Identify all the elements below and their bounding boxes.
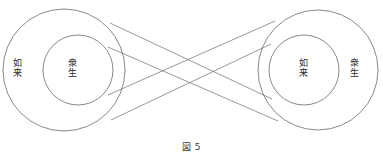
figure-caption: 図 5 [0,140,383,153]
right-outer-ring-label: 衆生 [349,58,359,77]
right-outer-circle [258,10,378,130]
left-inner-circle-label: 衆生 [67,58,77,77]
figure-container: 如来 衆生 如来 衆生 図 5 [0,0,383,160]
connector-line-1 [110,23,272,99]
left-inner-circle [43,35,113,105]
right-inner-circle-label: 如来 [298,58,308,77]
connector-line-4 [111,44,271,120]
left-outer-ring-label: 如来 [12,58,22,77]
venn-diagram-svg [0,0,383,160]
